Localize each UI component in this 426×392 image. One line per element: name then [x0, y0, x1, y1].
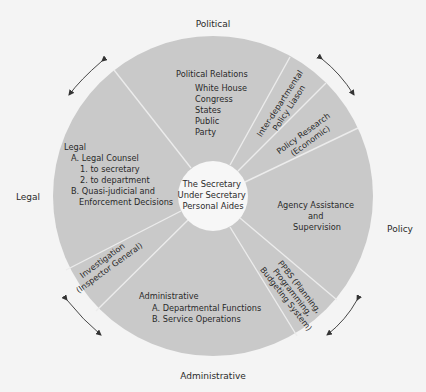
- arrow-bottom-right-icon: [327, 300, 357, 335]
- outer-label-policy: Policy: [387, 224, 414, 234]
- outer-label-administrative: Administrative: [180, 371, 246, 381]
- legal-title: Legal: [64, 142, 86, 152]
- item-enforcement-decisions: Enforcement Decisions: [79, 197, 173, 207]
- arrow-bottom-left-icon: [67, 300, 101, 335]
- item-departmental-functions: A. Departmental Functions: [152, 303, 261, 313]
- organization-wheel-diagram: The Secretary Under Secretary Personal A…: [0, 0, 426, 392]
- center-line-3: Personal Aides: [182, 201, 243, 211]
- political-relations-title: Political Relations: [176, 69, 248, 79]
- outer-label-political: Political: [196, 19, 231, 29]
- agency-line-2: and: [308, 211, 323, 221]
- item-party: Party: [195, 127, 216, 137]
- item-to-secretary: 1. to secretary: [80, 164, 140, 174]
- item-states: States: [195, 105, 221, 115]
- agency-line-3: Supervision: [293, 222, 341, 232]
- item-legal-counsel: A. Legal Counsel: [71, 153, 139, 163]
- item-white-house: White House: [195, 83, 247, 93]
- item-public: Public: [195, 116, 219, 126]
- outer-label-legal: Legal: [16, 192, 40, 202]
- item-congress: Congress: [195, 94, 233, 104]
- item-quasi-judicial: B. Quasi-judicial and: [71, 186, 155, 196]
- agency-line-1: Agency Assistance: [277, 200, 354, 210]
- item-service-operations: B. Service Operations: [152, 314, 241, 324]
- center-text: The Secretary Under Secretary Personal A…: [178, 179, 249, 211]
- administrative-title: Administrative: [139, 291, 199, 301]
- item-to-department: 2. to department: [80, 175, 150, 185]
- center-line-1: The Secretary: [181, 179, 241, 189]
- center-line-2: Under Secretary: [178, 190, 246, 200]
